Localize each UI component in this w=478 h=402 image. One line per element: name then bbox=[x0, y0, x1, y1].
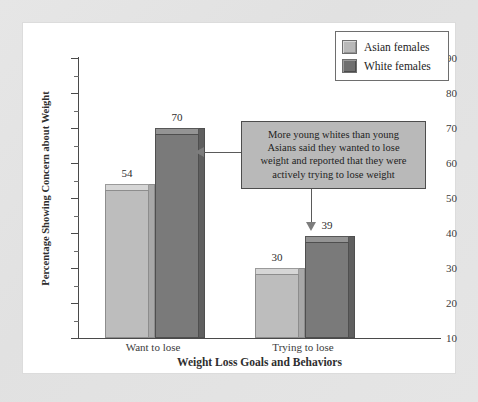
bar-asian-want-to-lose[interactable] bbox=[105, 184, 149, 338]
bar-white-want-to-lose[interactable] bbox=[155, 128, 199, 338]
y-axis-title: Percentage Showing Concern about Weight bbox=[40, 74, 51, 304]
x-axis-title: Weight Loss Goals and Behaviors bbox=[78, 356, 441, 368]
callout-arrow-down-head bbox=[306, 222, 316, 231]
annotation-callout: More young whites than young Asians said… bbox=[241, 121, 426, 189]
bar-asian-trying-to-lose[interactable] bbox=[255, 268, 299, 338]
bar-side-face bbox=[349, 236, 355, 338]
y-tick-label-50: 50 bbox=[413, 193, 457, 204]
plot-area: 90 80 70 60 50 40 30 20 10 Percentage Sh… bbox=[23, 23, 457, 375]
callout-line-1: More young whites than young bbox=[249, 128, 418, 141]
chart-panel: 90 80 70 60 50 40 30 20 10 Percentage Sh… bbox=[22, 22, 456, 374]
y-tick-minor-15 bbox=[74, 321, 79, 322]
legend-item-asian-females[interactable]: Asian females bbox=[342, 37, 442, 56]
y-tick-50 bbox=[71, 198, 79, 199]
x-axis-line bbox=[78, 338, 441, 339]
y-tick-label-20: 20 bbox=[413, 298, 457, 309]
bar-value-54: 54 bbox=[105, 167, 149, 179]
chart-legend: Asian females White females bbox=[335, 31, 449, 81]
x-tick-label-trying-to-lose: Trying to lose bbox=[243, 341, 363, 353]
y-tick-label-30: 30 bbox=[413, 263, 457, 274]
y-tick-minor-35 bbox=[74, 251, 79, 252]
legend-label-asian-females: Asian females bbox=[364, 41, 429, 53]
legend-swatch-light-icon bbox=[342, 40, 357, 54]
legend-item-white-females[interactable]: White females bbox=[342, 56, 442, 75]
callout-line-3: weight and reported that they were bbox=[249, 154, 418, 167]
callout-line-2: Asians said they wanted to lose bbox=[249, 141, 418, 154]
y-tick-30 bbox=[71, 268, 79, 269]
y-tick-minor-45 bbox=[74, 216, 79, 217]
bar-front-face bbox=[155, 134, 199, 338]
y-tick-60 bbox=[71, 163, 79, 164]
y-tick-minor-65 bbox=[74, 146, 79, 147]
y-tick-label-80: 80 bbox=[413, 88, 457, 99]
y-tick-70 bbox=[71, 128, 79, 129]
bar-value-70: 70 bbox=[155, 111, 199, 123]
y-tick-10 bbox=[71, 338, 79, 339]
y-tick-label-10: 10 bbox=[413, 333, 457, 344]
y-tick-label-40: 40 bbox=[413, 228, 457, 239]
y-tick-20 bbox=[71, 303, 79, 304]
y-tick-minor-75 bbox=[74, 111, 79, 112]
legend-swatch-dark-icon bbox=[342, 59, 357, 73]
bar-front-face bbox=[255, 274, 299, 338]
y-tick-90 bbox=[71, 58, 79, 59]
callout-arrow-left-head bbox=[195, 147, 204, 157]
legend-label-white-females: White females bbox=[364, 60, 431, 72]
figure-page: 90 80 70 60 50 40 30 20 10 Percentage Sh… bbox=[0, 0, 478, 402]
y-tick-minor-55 bbox=[74, 181, 79, 182]
y-tick-minor-25 bbox=[74, 286, 79, 287]
y-tick-minor-85 bbox=[74, 76, 79, 77]
bar-front-face bbox=[305, 242, 349, 338]
callout-line-4: actively trying to lose weight bbox=[249, 168, 418, 181]
bar-side-face bbox=[199, 128, 205, 338]
bar-white-trying-to-lose[interactable] bbox=[305, 236, 349, 338]
bar-value-30: 30 bbox=[255, 251, 299, 263]
callout-arrow-left-shaft bbox=[203, 152, 243, 153]
x-tick-label-want-to-lose: Want to lose bbox=[93, 341, 213, 353]
y-tick-40 bbox=[71, 233, 79, 234]
bar-front-face bbox=[105, 190, 149, 338]
y-tick-80 bbox=[71, 93, 79, 94]
